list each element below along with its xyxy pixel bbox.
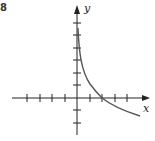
graph: y x	[0, 0, 155, 141]
x-axis-label: x	[143, 102, 150, 115]
curve	[78, 28, 140, 116]
y-axis-arrow-icon	[74, 5, 80, 14]
y-axis-label: y	[83, 2, 91, 15]
x-axis-arrow-icon	[142, 95, 150, 101]
